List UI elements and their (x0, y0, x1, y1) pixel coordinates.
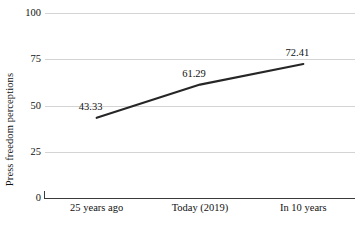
data-point-label: 61.29 (182, 68, 206, 79)
y-tick-label: 50 (22, 100, 41, 111)
data-point-label: 43.33 (79, 101, 103, 112)
y-tick-label: 0 (22, 193, 41, 204)
x-tick-label: Today (2019) (172, 203, 229, 214)
x-axis-tick (44, 191, 45, 199)
data-point-label: 72.41 (286, 48, 310, 59)
x-axis-line (45, 198, 355, 199)
x-axis-tick-labels: 25 years agoToday (2019)In 10 years (45, 203, 355, 219)
x-tick-label: In 10 years (280, 203, 327, 214)
line-chart: Press freedom perceptions 1007550250 43.… (0, 0, 363, 233)
y-tick-label: 100 (22, 8, 41, 19)
y-tick-label: 25 (22, 147, 41, 158)
y-axis-tick-labels: 1007550250 (22, 0, 41, 233)
x-tick-label: 25 years ago (70, 203, 123, 214)
y-tick-label: 75 (22, 54, 41, 65)
plot-area: 43.3361.2972.41 (45, 13, 355, 198)
y-axis-title: Press freedom perceptions (0, 0, 18, 233)
